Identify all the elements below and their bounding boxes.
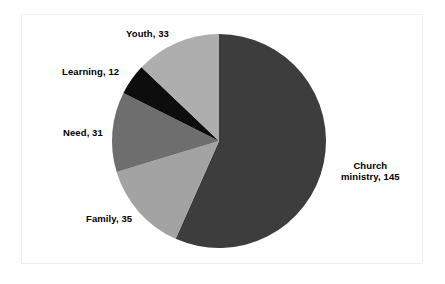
slice-label-church-ministry-line2: ministry, 145 [341, 171, 400, 182]
pie-chart-svg [0, 0, 445, 284]
slice-label-need: Need, 31 [63, 127, 103, 138]
pie-chart-figure: Church ministry, 145 Family, 35 Need, 31… [0, 0, 445, 284]
slice-label-youth: Youth, 33 [126, 28, 169, 39]
slice-label-church-ministry-line1: Church [341, 160, 400, 171]
slice-label-family: Family, 35 [86, 213, 132, 224]
slice-label-learning: Learning, 12 [62, 66, 119, 77]
pie-slices-group [112, 34, 326, 248]
slice-label-church-ministry: Church ministry, 145 [341, 160, 400, 182]
